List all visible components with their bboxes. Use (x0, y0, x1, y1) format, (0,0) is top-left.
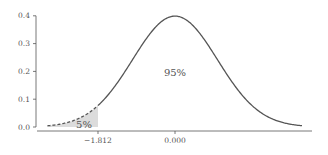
y-tick-label: 0.2 (18, 67, 30, 76)
y-tick-label: 0.4 (18, 11, 30, 20)
x-tick-label: −1.812 (84, 136, 112, 145)
x-tick-label: 0.000 (164, 136, 186, 145)
center-region-label: 95% (164, 67, 186, 78)
y-tick-label: 0.3 (18, 39, 30, 48)
y-tick-label: 0.0 (18, 123, 30, 132)
normal-distribution-chart: 0.00.10.20.30.4 −1.8120.000 95% 5% (0, 0, 328, 155)
y-axis: 0.00.10.20.30.4 (18, 11, 36, 131)
y-tick-label: 0.1 (18, 95, 30, 104)
tail-region-label: 5% (76, 119, 92, 130)
x-axis: −1.8120.000 (37, 131, 312, 145)
